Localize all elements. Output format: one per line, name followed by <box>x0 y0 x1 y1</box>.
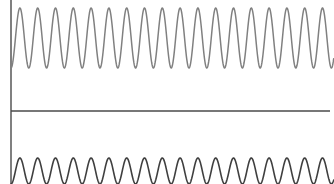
lower-sine-wave-path <box>11 158 334 184</box>
upper-sine-wave-path <box>11 8 334 68</box>
waveform-plot-canvas <box>0 0 334 184</box>
waveform-plot-svg <box>0 0 334 184</box>
